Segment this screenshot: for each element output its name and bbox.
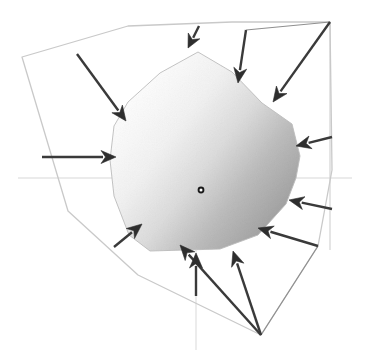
center-point-marker (198, 187, 205, 194)
arrow-top-right-diagonal (273, 22, 330, 102)
arrow-bottom-middle-diagonal-shaft (189, 255, 261, 335)
arrow-bottom-right-long-shaft (237, 263, 261, 335)
arrow-top-right-diagonal-shaft (281, 22, 330, 91)
fan-line-top-right-a (246, 22, 330, 30)
arrow-right-lower-horizontal-shaft (302, 203, 332, 209)
arrow-top-short-down-left-shaft (193, 26, 199, 38)
arrow-top-short-down-left (188, 26, 200, 48)
arrow-lower-right-diagonal (258, 226, 318, 246)
figure-canvas (0, 0, 366, 362)
arrow-top-vertical-down (234, 30, 247, 83)
shaded-region-group (110, 52, 300, 251)
arrow-right-horizontal (296, 136, 332, 149)
fan-line-bottom-right-a (261, 246, 318, 335)
center-dot-inner-fill (200, 189, 203, 192)
arrow-upper-left-diagonal (77, 54, 126, 121)
arrow-lower-right-diagonal-shaft (270, 232, 318, 246)
figure-root: A shaded convex polygon with a left-to-r… (0, 0, 366, 362)
arrow-right-horizontal-shaft (309, 137, 332, 143)
arrow-top-vertical-down-shaft (240, 30, 246, 70)
arrow-top-right-diagonal-head (273, 86, 287, 102)
arrow-bottom-middle-diagonal (180, 245, 261, 335)
shaded-convex-region (110, 52, 300, 251)
arrow-lower-left-short-shaft (114, 232, 132, 247)
arrow-upper-left-diagonal-shaft (77, 54, 118, 111)
